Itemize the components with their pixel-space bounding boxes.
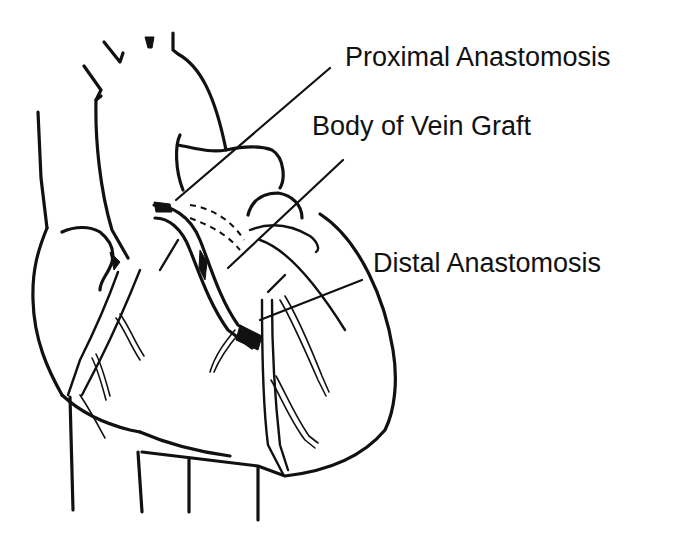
label-proximal-anastomosis: Proximal Anastomosis	[345, 44, 611, 71]
heart-bypass-diagram: Proximal Anastomosis Body of Vein Graft …	[0, 0, 689, 537]
superior-vena-cava	[33, 112, 62, 395]
label-body-of-vein-graft: Body of Vein Graft	[312, 113, 531, 140]
lad-artery	[262, 275, 329, 474]
pulmonary-artery	[177, 135, 284, 190]
left-atrial-appendage	[248, 193, 318, 252]
label-distal-anastomosis: Distal Anastomosis	[373, 250, 601, 277]
leader-line-proximal-anastomosis	[176, 68, 330, 200]
vein-graft	[154, 202, 262, 350]
right-atrium	[62, 228, 120, 291]
pulmonary-veins	[70, 397, 258, 520]
right-coronary-artery	[68, 270, 144, 438]
leader-line-body-of-vein-graft	[228, 160, 343, 268]
